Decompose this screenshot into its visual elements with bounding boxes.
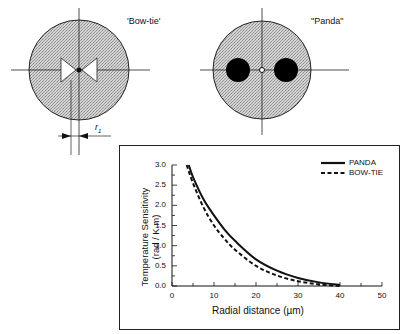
r1-label-subscript: 1	[98, 128, 101, 134]
legend-panda-label: PANDA	[349, 158, 376, 167]
panda-right-stress-rod	[274, 58, 298, 82]
y-tick-label: 0.0	[148, 281, 166, 290]
x-tick-label: 40	[332, 291, 348, 300]
bowtie-core	[77, 68, 82, 73]
panda-title: "Panda"	[311, 16, 343, 26]
y-tick-label: 3.0	[148, 160, 166, 169]
bowtie-fiber-diagram	[11, 8, 150, 155]
r1-arrow-right-icon	[79, 133, 88, 139]
y-tick-label: 2.0	[148, 200, 166, 209]
x-tick-label: 30	[290, 291, 306, 300]
y-tick-label: 1.0	[148, 241, 166, 250]
x-tick-label: 0	[164, 291, 180, 300]
figure-canvas	[0, 0, 409, 334]
bowtie-title: 'Bow-tie'	[127, 16, 160, 26]
panda-fiber-diagram	[200, 8, 349, 135]
x-tick-label: 20	[248, 291, 264, 300]
panda-left-stress-rod	[226, 58, 250, 82]
y-tick-label: 1.5	[148, 221, 166, 230]
x-tick-label: 50	[374, 291, 390, 300]
y-tick-label: 2.5	[148, 180, 166, 189]
panda-core	[260, 68, 265, 73]
x-tick-label: 10	[206, 291, 222, 300]
legend-bowtie-label: BOW-TIE	[349, 168, 383, 177]
r1-label: r1	[95, 122, 101, 134]
y-tick-label: 0.5	[148, 261, 166, 270]
x-axis-label: Radial distance (µm)	[212, 305, 304, 316]
r1-arrow-left-icon	[62, 133, 71, 139]
